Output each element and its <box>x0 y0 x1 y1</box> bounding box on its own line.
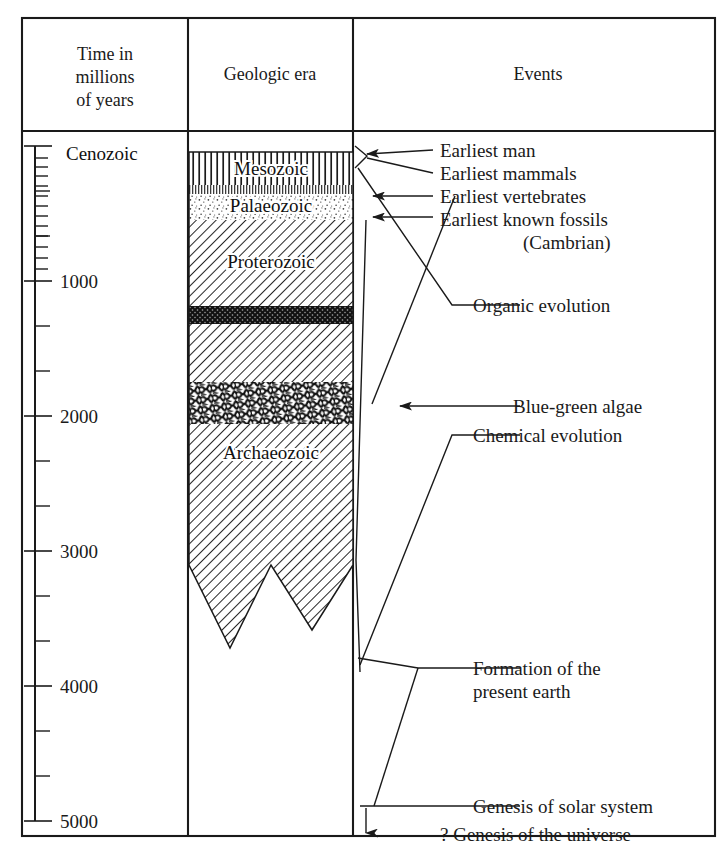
era-band-proterozoic-lower <box>189 324 353 384</box>
event-label-organic-evolution: Organic evolution <box>473 295 611 316</box>
event-label-earliest-vertebrates: Earliest vertebrates <box>440 186 586 207</box>
header-time-line3: of years <box>76 90 133 110</box>
header-geologic-era: Geologic era <box>224 64 316 84</box>
leader-earliest-man <box>367 150 433 154</box>
axis-label-4000: 4000 <box>60 676 98 697</box>
header-events: Events <box>514 64 563 84</box>
event-label-cambrian: (Cambrian) <box>523 232 611 254</box>
figure-root: Time in millions of years Geologic era E… <box>0 0 727 864</box>
event-label-earliest-man: Earliest man <box>440 140 536 161</box>
era-label-mesozoic: Mesozoic <box>234 158 308 179</box>
era-label-proterozoic: Proterozoic <box>227 251 315 272</box>
axis-fine-ticks <box>35 158 48 269</box>
geologic-time-diagram: Time in millions of years Geologic era E… <box>0 0 727 864</box>
event-labels: Earliest man Earliest mammals Earliest v… <box>440 140 653 845</box>
event-label-genesis-solar-system: Genesis of solar system <box>473 796 653 817</box>
leader-earliest-mammals <box>367 158 433 173</box>
leader-formation-earth-lower <box>374 668 418 806</box>
era-label-archaeozoic: Archaeozoic <box>223 442 319 463</box>
event-label-genesis-universe: ? Genesis of the universe <box>440 824 631 845</box>
era-label-cenozoic: Cenozoic <box>66 143 138 164</box>
header-time-column: Time in millions of years <box>75 44 134 110</box>
leader-chemical-evolution <box>360 435 520 665</box>
event-label-earliest-fossils: Earliest known fossils <box>440 209 608 230</box>
geologic-column: Mesozoic Palaeozoic Proterozoic Archaeoz… <box>189 152 353 654</box>
axis-label-5000: 5000 <box>60 811 98 832</box>
era-band-mesozoic-fine <box>189 185 353 194</box>
header-time-line1: Time in <box>77 44 133 64</box>
axis-label-1000: 1000 <box>60 271 98 292</box>
event-label-earliest-mammals: Earliest mammals <box>440 163 577 184</box>
era-band-dark-marker-1 <box>189 306 353 324</box>
event-leader-lines <box>355 146 520 833</box>
leader-node-top <box>355 146 367 168</box>
era-band-dark-marker-2 <box>189 382 353 424</box>
axis-label-2000: 2000 <box>60 406 98 427</box>
event-label-formation-earth-line1: Formation of the <box>473 658 601 679</box>
axis-label-3000: 3000 <box>60 541 98 562</box>
time-axis: 1000 2000 3000 4000 5000 Cenozoic <box>24 143 138 832</box>
leader-long-sweep <box>356 220 366 672</box>
event-label-formation-earth-line2: present earth <box>473 681 571 702</box>
header-time-line2: millions <box>75 67 134 87</box>
era-label-palaeozoic: Palaeozoic <box>230 195 312 216</box>
event-label-blue-green-algae: Blue-green algae <box>513 396 642 417</box>
event-label-chemical-evolution: Chemical evolution <box>473 425 623 446</box>
